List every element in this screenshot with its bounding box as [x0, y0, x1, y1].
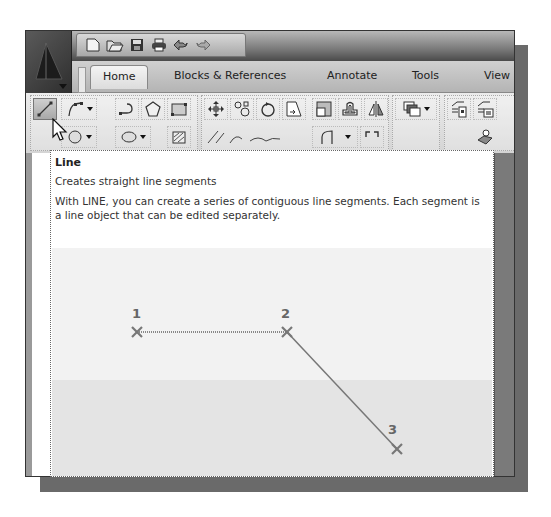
rectangle-button[interactable]	[167, 98, 191, 120]
quick-access-toolbar	[76, 33, 246, 57]
tooltip-subtitle: Creates straight line segments	[55, 175, 217, 187]
copy-icon	[233, 100, 251, 118]
redo-button[interactable]	[193, 35, 213, 55]
offset-icon	[341, 100, 359, 118]
array-dropdown-icon[interactable]	[345, 135, 351, 139]
open-button[interactable]	[105, 35, 125, 55]
explode-icon	[363, 129, 381, 145]
ribbon-tab-bar: Home Blocks & References Annotate Tools …	[72, 61, 515, 93]
scale-button[interactable]	[312, 98, 336, 120]
tooltip-description: With LINE, you can create a series of co…	[55, 194, 485, 222]
ellipse-dropdown-icon[interactable]	[140, 135, 146, 139]
undo-button[interactable]	[171, 35, 191, 55]
move-button[interactable]	[204, 98, 228, 120]
array-icon	[320, 129, 342, 145]
undo-icon	[173, 38, 189, 52]
insert-block-icon	[450, 100, 468, 118]
rotate-button[interactable]	[256, 98, 280, 120]
array-button[interactable]	[312, 126, 358, 148]
fillet-icon	[206, 129, 282, 145]
line-tooltip: Line Creates straight line segments With…	[50, 150, 494, 477]
line-button[interactable]	[33, 98, 57, 120]
create-block-button[interactable]	[473, 98, 497, 120]
redo-icon	[195, 38, 211, 52]
create-block-icon	[476, 100, 494, 118]
point-label-1: 1	[132, 306, 141, 321]
tab-tools[interactable]: Tools	[412, 69, 439, 82]
layer-states-icon	[476, 128, 494, 146]
point-label-2: 2	[281, 306, 290, 321]
line-icon	[36, 100, 54, 118]
hatch-button[interactable]	[167, 126, 191, 148]
stretch-icon	[285, 100, 303, 118]
new-button[interactable]	[83, 35, 103, 55]
insert-block-button[interactable]	[447, 98, 471, 120]
print-button[interactable]	[149, 35, 169, 55]
tooltip-title: Line	[55, 156, 81, 169]
ribbon-panel-area	[26, 93, 515, 153]
line-segments-diagram	[52, 248, 492, 476]
tab-annotate[interactable]: Annotate	[327, 69, 377, 82]
arc-icon	[118, 100, 136, 118]
rectangle-icon	[170, 100, 188, 118]
tab-home[interactable]: Home	[90, 65, 148, 89]
polyline-dropdown-icon[interactable]	[87, 107, 93, 111]
polygon-icon	[144, 100, 162, 118]
stretch-button[interactable]	[282, 98, 306, 120]
window-left-edge	[26, 153, 32, 477]
application-menu-button[interactable]	[26, 31, 72, 93]
modify-panel	[201, 95, 389, 151]
circle-icon	[67, 129, 83, 145]
polyline-button[interactable]	[61, 98, 97, 120]
tooltip-illustration: 1 2 3	[52, 248, 492, 476]
print-icon	[151, 38, 167, 52]
offset-button[interactable]	[338, 98, 362, 120]
explode-button[interactable]	[360, 126, 384, 148]
app-menu-caret-icon	[59, 84, 67, 89]
mouse-pointer-icon	[52, 118, 68, 142]
polyline-icon	[66, 100, 84, 118]
point-3-marker	[392, 444, 402, 454]
layers-panel	[392, 95, 440, 151]
rotate-icon	[259, 100, 277, 118]
polygon-button[interactable]	[141, 98, 165, 120]
open-icon	[106, 38, 124, 52]
hatch-icon	[171, 129, 187, 145]
tab-view[interactable]: View	[484, 69, 510, 82]
save-icon	[130, 38, 144, 52]
tab-blocks-references[interactable]: Blocks & References	[174, 69, 286, 82]
scale-icon	[315, 100, 333, 118]
mirror-button[interactable]	[364, 98, 388, 120]
block-panel	[444, 95, 515, 151]
ellipse-button[interactable]	[115, 126, 151, 148]
ellipse-icon	[121, 129, 137, 145]
circle-dropdown-icon[interactable]	[86, 135, 92, 139]
point-1-marker	[132, 327, 142, 337]
move-icon	[207, 100, 225, 118]
save-button[interactable]	[127, 35, 147, 55]
tab-gutter	[78, 67, 86, 93]
layer-properties-button[interactable]	[395, 98, 437, 120]
point-label-3: 3	[388, 422, 397, 437]
autocad-logo-icon	[32, 39, 66, 83]
copy-button[interactable]	[230, 98, 254, 120]
layers-dropdown-icon[interactable]	[424, 107, 430, 111]
layer-states-button[interactable]	[473, 126, 497, 148]
arc-button[interactable]	[115, 98, 139, 120]
layers-icon	[403, 100, 421, 118]
new-icon	[85, 38, 101, 52]
fillet-chamfer-group[interactable]	[204, 126, 284, 148]
vertical-scrollbar[interactable]	[494, 153, 514, 477]
mirror-icon	[367, 100, 385, 118]
